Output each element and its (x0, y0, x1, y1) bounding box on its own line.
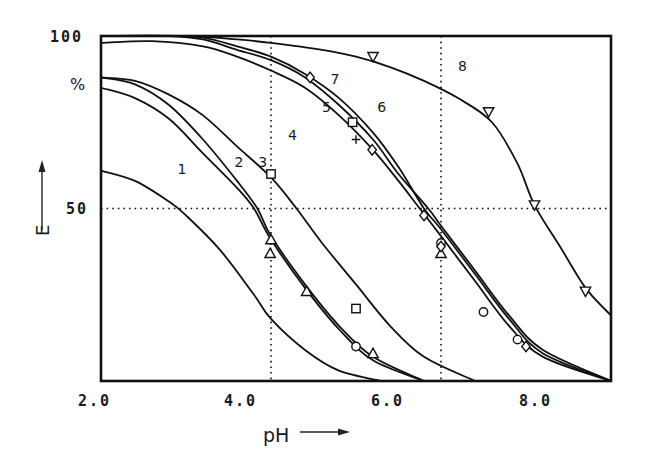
curve-label-5: 5 (322, 99, 331, 115)
marker-square-icon (267, 170, 275, 178)
marker-circle-icon (513, 335, 521, 343)
x-tick-6: 6.0 (371, 392, 404, 410)
marker-circle-icon (352, 342, 360, 350)
x-axis-label: pH (263, 424, 289, 446)
curve-label-7: 7 (331, 71, 340, 87)
marker-triangle-up-icon (266, 234, 276, 243)
marker-cross-icon (352, 135, 360, 143)
curve-label-4: 4 (288, 127, 297, 143)
marker-diamond-icon (306, 72, 314, 82)
curve-label-6: 6 (377, 99, 386, 115)
data-markers (265, 53, 591, 358)
x-axis-arrow-icon (300, 429, 350, 436)
y-axis-label: E (32, 225, 53, 236)
curve-2 (101, 88, 424, 381)
y-unit-label: % (70, 75, 85, 94)
y-tick-50: 50 (66, 200, 88, 218)
curve-3 (101, 77, 424, 381)
marker-square-icon (348, 118, 356, 126)
marker-triangle-up-icon (368, 348, 378, 357)
x-tick-4: 4.0 (224, 392, 257, 410)
curve-labels: 12345678 (178, 58, 467, 178)
x-tick-8: 8.0 (519, 392, 552, 410)
chart: 12345678 100 50 % E 2.0 4.0 6.0 8.0 pH (0, 0, 659, 462)
curve-label-1: 1 (178, 161, 187, 177)
y-axis-arrow-icon (39, 160, 46, 230)
curve-label-3: 3 (258, 154, 267, 170)
x-tick-2: 2.0 (78, 392, 111, 410)
curve-label-2: 2 (234, 154, 243, 170)
marker-square-icon (352, 304, 360, 312)
curve-1 (101, 171, 382, 381)
marker-circle-icon (479, 308, 487, 316)
curve-label-8: 8 (458, 58, 467, 74)
y-tick-100: 100 (50, 28, 83, 46)
marker-triangle-up-icon (265, 248, 275, 257)
